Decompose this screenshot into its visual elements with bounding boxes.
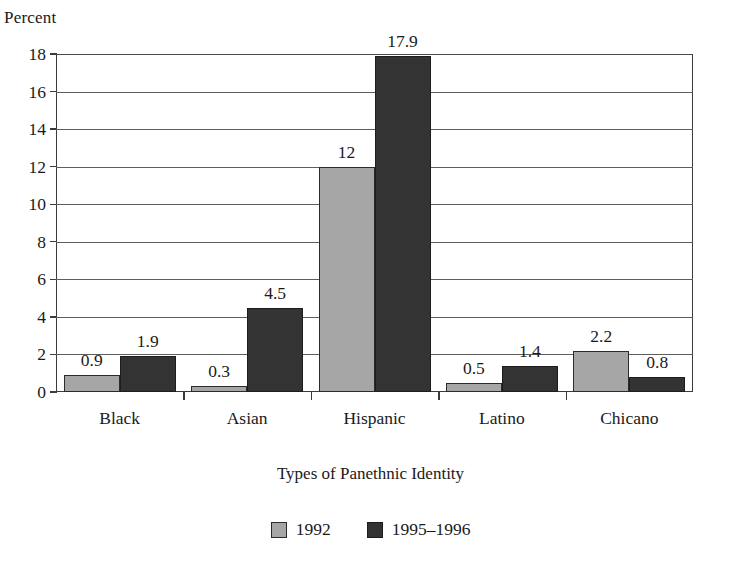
y-axis-tick-label: 12 [12,156,46,177]
bar-hispanic-1995-1996 [375,56,431,392]
legend-swatch-icon [271,522,287,538]
x-axis-label-latino: Latino [479,408,525,429]
x-axis-tick-mark [566,392,567,400]
legend-swatch-icon [367,522,383,538]
bar-black-1995-1996 [120,356,176,392]
legend-label: 1992 [296,519,331,540]
y-axis-tick-label: 10 [12,194,46,215]
x-axis-label-chicano: Chicano [600,408,658,429]
y-axis-tick-label: 2 [12,344,46,365]
bar-latino-1992 [446,383,502,392]
x-axis-tick-mark [183,392,184,400]
x-axis-label-black: Black [99,408,140,429]
legend-item-1992[interactable]: 1992 [271,519,331,540]
x-axis-label-hispanic: Hispanic [343,408,405,429]
x-axis-label-asian: Asian [227,408,268,429]
legend-item-1995-1996[interactable]: 1995–1996 [367,519,471,540]
y-axis-tick-label: 14 [12,119,46,140]
bar-chicano-1992 [573,351,629,392]
y-axis-title: Percent [4,8,56,28]
bar-hispanic-1992 [319,167,375,392]
bar-asian-1992 [191,386,247,392]
legend-label: 1995–1996 [392,519,471,540]
x-axis-title: Types of Panethnic Identity [0,464,741,484]
bar-latino-1995-1996 [502,366,558,392]
x-axis-tick-mark [438,392,439,400]
bar-value-label: 1.4 [519,341,541,362]
bar-value-label: 17.9 [387,31,418,52]
bar-chart: Percent 024681012141618 BlackAsianHispan… [0,0,741,566]
bar-value-label: 12 [338,142,356,163]
bar-chicano-1995-1996 [629,377,685,392]
bar-value-label: 0.5 [463,358,485,379]
y-axis-tick-label: 4 [12,306,46,327]
x-axis-tick-mark [311,392,312,400]
bar-value-label: 0.9 [81,350,103,371]
bar-value-label: 0.3 [208,361,230,382]
bar-value-label: 2.2 [590,326,612,347]
bar-asian-1995-1996 [247,308,303,393]
bar-value-label: 4.5 [264,283,286,304]
y-axis-tick-label: 0 [12,382,46,403]
y-axis-tick-label: 6 [12,269,46,290]
y-axis-tick-label: 16 [12,81,46,102]
bar-value-label: 1.9 [137,331,159,352]
y-axis-tick-label: 8 [12,231,46,252]
y-axis-tick-label: 18 [12,44,46,65]
bar-value-label: 0.8 [646,352,668,373]
chart-legend: 19921995–1996 [0,519,741,540]
bar-black-1992 [64,375,120,392]
